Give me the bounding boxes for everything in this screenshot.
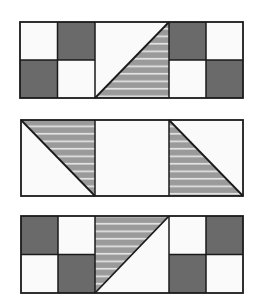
strip-middle [21,120,243,196]
plain-square-center [95,120,169,196]
half-square-triangle-right [169,120,243,196]
four-patch-right [169,22,243,98]
four-patch-left [21,216,95,293]
half-square-triangle-center [95,216,169,293]
strip-bottom [21,216,243,293]
quilt-diagram [0,0,261,300]
four-patch-left [20,22,95,98]
half-square-triangle-center [95,22,169,98]
half-square-triangle-left [21,120,95,196]
strip-top [20,22,243,98]
four-patch-right [169,216,243,293]
